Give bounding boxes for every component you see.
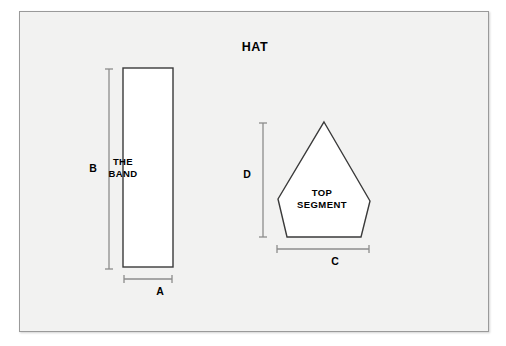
diagram-canvas: HAT THE BAND TOP SEGMEN	[0, 0, 506, 346]
top-segment-pentagon	[278, 122, 370, 237]
diagram-frame: HAT THE BAND TOP SEGMEN	[19, 11, 489, 332]
band-rectangle	[123, 68, 173, 267]
diagram-geometry	[20, 12, 490, 333]
